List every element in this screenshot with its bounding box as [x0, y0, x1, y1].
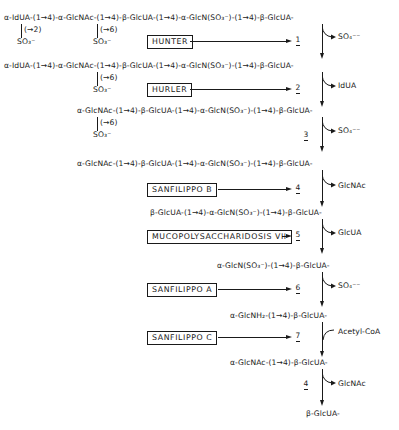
product-iduronate: IdUA	[338, 82, 356, 90]
chain-7: α-GlcNH₂-(1→4)-β-GlcUA-	[230, 312, 327, 320]
curved-arrow-icon	[322, 222, 336, 238]
chain-3: α-GlcNAc-(1→4)-β-GlcUA-(1→4)-α-GlcN(SO₃⁻…	[77, 107, 313, 115]
chain-2-link-6: (→6)	[100, 74, 118, 82]
branch-line	[97, 117, 98, 131]
disease-box-sanfilippo-c: SANFILIPPO C	[147, 331, 217, 345]
connector-line	[190, 89, 286, 90]
step-number: 5	[294, 231, 302, 241]
arrow-right-icon	[286, 234, 292, 238]
product-sulfate: SO₄⁻⁻	[338, 33, 360, 41]
curved-arrow-in-icon	[322, 328, 336, 342]
curved-arrow-icon	[322, 372, 336, 388]
arrow-right-icon	[286, 39, 292, 43]
arrow-down-icon	[320, 53, 324, 59]
step-number: 4	[294, 184, 302, 194]
chain-3-sulfate: SO₃⁻	[93, 131, 111, 139]
step-number: 6	[294, 284, 302, 294]
product-acetyl-coa: Acetyl-CoA	[338, 328, 380, 336]
step-number: 1	[294, 36, 302, 46]
branch-line	[97, 72, 98, 86]
chain-1-link-2: (→2)	[24, 26, 42, 34]
branch-line	[97, 24, 98, 38]
arrow-down-icon	[320, 400, 324, 406]
product-glcua: GlcUA	[338, 229, 361, 237]
chain-5: β-GlcUA-(1→4)-α-GlcN(SO₃⁻)-(1→4)-β-GlcUA…	[150, 209, 322, 217]
chain-1-sulfate-2: SO₃⁻	[93, 38, 111, 46]
chain-8: α-GlcNAc-(1→4)-β-GlcUA-	[230, 359, 328, 367]
branch-line	[21, 24, 22, 38]
connector-line	[218, 289, 286, 290]
chain-9: β-GlcUA-	[306, 410, 340, 418]
chain-1-sulfate-1: SO₃⁻	[17, 38, 35, 46]
disease-box-sanfilippo-b: SANFILIPPO B	[147, 183, 217, 197]
curved-arrow-icon	[322, 26, 336, 42]
chain-2-sulfate: SO₃⁻	[93, 86, 111, 94]
disease-box-mps-vii: MUCOPOLYSACCHARIDOSIS VII	[147, 230, 292, 244]
arrow-down-icon	[320, 248, 324, 254]
arrow-down-icon	[320, 201, 324, 207]
product-sulfate: SO₄⁻⁻	[338, 282, 360, 290]
product-glcnac: GlcNAc	[338, 380, 366, 388]
connector-line	[218, 337, 286, 338]
chain-1: α-IdUA-(1→4)-α-GlcNAc-(1→4)-β-GlcUA-(1→4…	[4, 14, 294, 22]
step-number: 7	[294, 332, 302, 342]
connector-line	[218, 189, 286, 190]
disease-box-hurler: HURLER	[147, 83, 192, 97]
chain-4: α-GlcNAc-(1→4)-β-GlcUA-(1→4)-α-GlcN(SO₃⁻…	[77, 160, 313, 168]
disease-box-hunter: HUNTER	[147, 35, 193, 49]
arrow-right-icon	[286, 87, 292, 91]
disease-box-sanfilippo-a: SANFILIPPO A	[147, 283, 217, 297]
arrow-right-icon	[286, 335, 292, 339]
chain-2: α-IdUA-(1→4)-α-GlcNAc-(1→4)-β-GlcUA-(1→4…	[4, 62, 294, 70]
curved-arrow-icon	[322, 275, 336, 291]
product-glcnac: GlcNAc	[338, 182, 366, 190]
step-number: 3	[302, 131, 310, 141]
chain-3-link-6: (→6)	[100, 119, 118, 127]
arrow-right-icon	[286, 287, 292, 291]
curved-arrow-icon	[322, 120, 336, 136]
step-number: 4	[302, 380, 310, 390]
curved-arrow-icon	[322, 75, 336, 91]
arrow-down-icon	[320, 101, 324, 107]
product-sulfate: SO₄⁻⁻	[338, 127, 360, 135]
arrow-down-icon	[320, 351, 324, 357]
arrow-right-icon	[286, 187, 292, 191]
arrow-down-icon	[320, 146, 324, 152]
arrow-down-icon	[320, 301, 324, 307]
chain-1-link-6: (→6)	[100, 26, 118, 34]
step-number: 2	[294, 84, 302, 94]
chain-6: α-GlcN(SO₃⁻)-(1→4)-β-GlcUA-	[217, 262, 330, 270]
curved-arrow-icon	[322, 174, 336, 190]
connector-line	[190, 41, 286, 42]
